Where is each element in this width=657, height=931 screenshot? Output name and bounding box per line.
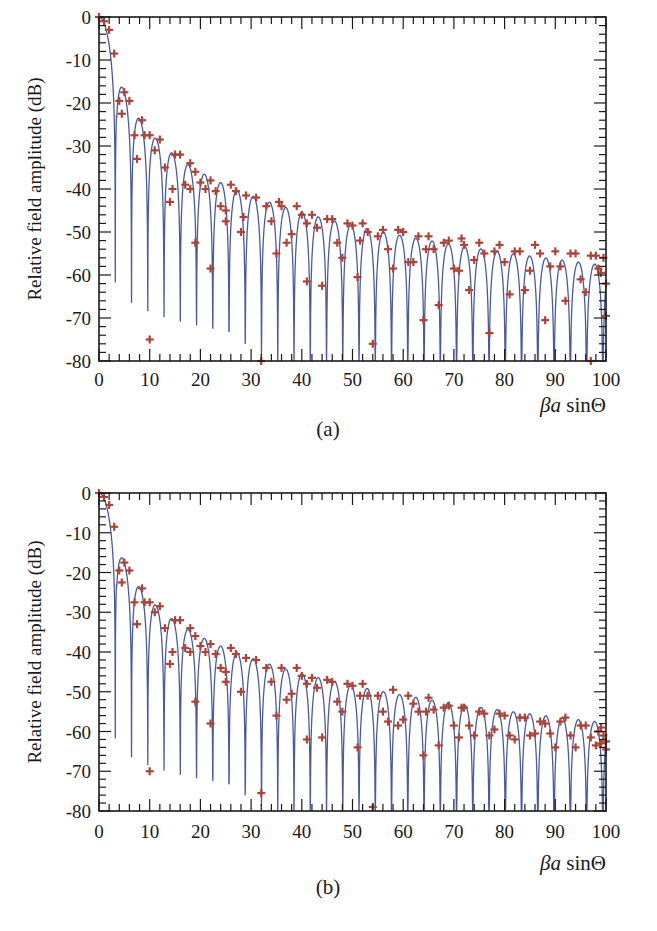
plus-marker <box>293 664 301 672</box>
plus-marker <box>252 194 260 202</box>
plus-marker <box>169 185 177 193</box>
plus-marker <box>252 656 260 664</box>
plus-marker <box>470 731 478 739</box>
plus-marker <box>196 642 204 650</box>
x-tick-label: 50 <box>343 821 362 842</box>
x-tick-label: 0 <box>94 821 104 842</box>
plus-marker <box>404 692 412 700</box>
x-tick-label: 80 <box>495 369 514 390</box>
x-tick-label: 90 <box>546 369 565 390</box>
plus-marker <box>521 286 529 294</box>
plus-marker <box>133 620 141 628</box>
plus-marker <box>490 247 498 255</box>
y-axis-label: Relative field amplitude (dB) <box>24 77 46 300</box>
plus-marker <box>546 262 554 270</box>
x-tick-label: 70 <box>444 369 463 390</box>
y-axis-label: Relative field amplitude (dB) <box>24 540 46 763</box>
plus-marker <box>186 624 194 632</box>
x-tick-label: 50 <box>343 369 362 390</box>
plus-marker <box>222 207 230 215</box>
marker-series <box>95 13 610 365</box>
plus-marker <box>293 202 301 210</box>
plus-marker <box>288 230 296 238</box>
x-tick-label: 100 <box>592 369 621 390</box>
plus-marker <box>262 202 270 210</box>
plus-marker <box>308 211 316 219</box>
plus-marker <box>308 674 316 682</box>
chart-panel-b: 01020304050607080901000-10-20-30-40-50-6… <box>0 470 657 931</box>
plus-marker <box>115 567 123 575</box>
y-tick-label: -20 <box>66 563 91 584</box>
x-tick-label: 60 <box>394 821 413 842</box>
plus-marker <box>227 181 235 189</box>
y-tick-label: -70 <box>66 308 91 329</box>
plus-marker <box>425 232 433 240</box>
plus-marker <box>130 131 138 139</box>
y-tick-label: -80 <box>66 801 91 822</box>
y-tick-label: -30 <box>66 602 91 623</box>
plus-marker <box>546 729 554 737</box>
y-tick-label: -80 <box>66 351 91 372</box>
plus-marker <box>587 733 595 741</box>
plus-marker <box>582 722 590 730</box>
plus-marker <box>110 50 118 58</box>
plus-marker <box>138 584 146 592</box>
plus-marker <box>303 680 311 688</box>
y-tick-label: -10 <box>66 50 91 71</box>
plus-marker <box>389 686 397 694</box>
plus-marker <box>414 232 422 240</box>
y-tick-label: -50 <box>66 222 91 243</box>
chart-a-svg: 01020304050607080901000-10-20-30-40-50-6… <box>0 0 657 470</box>
plus-marker <box>217 202 225 210</box>
x-tick-label: 60 <box>394 369 413 390</box>
plus-marker <box>384 718 392 726</box>
plus-marker <box>318 282 326 290</box>
plus-marker <box>191 632 199 640</box>
plus-marker <box>283 696 291 704</box>
plus-marker <box>110 523 118 531</box>
plus-marker <box>283 239 291 247</box>
plus-marker <box>257 789 265 797</box>
plus-marker <box>222 217 230 225</box>
plus-marker <box>556 262 564 270</box>
plus-marker <box>130 598 138 606</box>
y-tick-label: -10 <box>66 523 91 544</box>
plus-marker <box>133 155 141 163</box>
y-tick-label: -40 <box>66 179 91 200</box>
plus-marker <box>465 722 473 730</box>
plus-marker <box>526 267 534 275</box>
plus-marker <box>536 250 544 258</box>
plus-marker <box>196 179 204 187</box>
y-tick-label: -60 <box>66 722 91 743</box>
plus-marker <box>288 690 296 698</box>
plus-marker <box>166 660 174 668</box>
plus-marker <box>242 654 250 662</box>
plus-marker <box>115 97 123 105</box>
plus-marker <box>176 151 184 159</box>
y-tick-label: -20 <box>66 93 91 114</box>
x-tick-label: 80 <box>495 821 514 842</box>
x-tick-label: 100 <box>592 821 621 842</box>
plus-marker <box>455 733 463 741</box>
plus-marker <box>118 110 126 118</box>
plus-marker <box>485 329 493 337</box>
x-tick-label: 40 <box>292 821 311 842</box>
plus-marker <box>222 678 230 686</box>
y-tick-label: -30 <box>66 136 91 157</box>
plus-marker <box>561 714 569 722</box>
x-tick-label: 0 <box>94 369 104 390</box>
x-tick-label: 20 <box>191 369 210 390</box>
plus-marker <box>146 131 154 139</box>
y-tick-label: 0 <box>82 7 92 28</box>
plus-marker <box>191 239 199 247</box>
x-tick-label: 30 <box>242 369 261 390</box>
plus-marker <box>399 716 407 724</box>
plus-marker <box>541 316 549 324</box>
x-tick-label: 10 <box>140 369 159 390</box>
plus-marker <box>146 598 154 606</box>
plus-marker <box>242 191 250 199</box>
plus-marker <box>239 213 247 221</box>
plus-marker <box>409 700 417 708</box>
plus-marker <box>138 116 146 124</box>
plus-marker <box>120 559 128 567</box>
